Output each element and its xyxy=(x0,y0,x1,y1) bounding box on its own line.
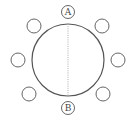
empty-seat-1 xyxy=(27,19,41,33)
empty-seat-5 xyxy=(22,87,36,101)
seat-a-label: A xyxy=(64,7,72,17)
empty-seat-2 xyxy=(95,19,109,33)
seating-diagram: A B xyxy=(0,0,131,121)
seat-b-label: B xyxy=(65,103,72,113)
empty-seat-4 xyxy=(111,53,125,67)
seat-a: A xyxy=(62,6,75,19)
empty-seat-6 xyxy=(96,87,110,101)
seat-b: B xyxy=(62,102,75,115)
empty-seat-3 xyxy=(11,53,25,67)
